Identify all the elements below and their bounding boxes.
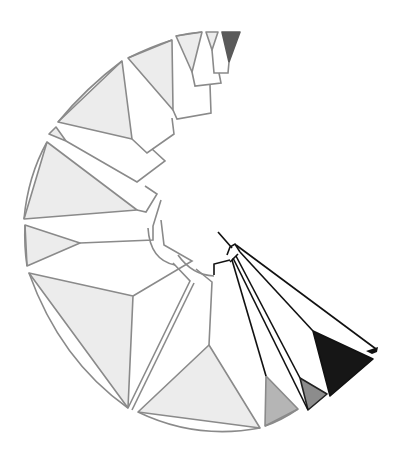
clade-c1 — [222, 32, 240, 62]
gray-branch — [196, 269, 212, 345]
clade-c4 — [128, 40, 173, 110]
black-branches — [214, 232, 376, 410]
black-branch — [236, 256, 300, 378]
gray-branch — [137, 186, 157, 212]
gray-branch — [132, 118, 174, 153]
gray-branch — [173, 85, 211, 119]
clade-c8 — [25, 225, 80, 266]
collapsed-clades — [24, 32, 373, 428]
black-branch — [218, 232, 232, 248]
black-branch — [232, 260, 266, 376]
clade-c2 — [206, 32, 218, 50]
black-branch — [240, 252, 313, 331]
clade-c5 — [58, 61, 132, 139]
clade-c3 — [176, 32, 202, 72]
black-branch — [214, 260, 230, 275]
clade-c9 — [29, 273, 133, 408]
phylogenetic-tree-diagram — [0, 0, 404, 464]
clade-c10 — [138, 345, 260, 428]
clade-c12 — [300, 378, 327, 410]
gray-branch — [148, 228, 175, 265]
clade-c6 — [49, 127, 66, 141]
thick-black-branch-tip — [366, 347, 378, 354]
gray-branch — [192, 72, 221, 86]
gray-branch — [133, 220, 192, 296]
